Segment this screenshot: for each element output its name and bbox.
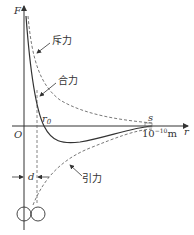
molecule-right	[31, 207, 45, 221]
repulsive-label: 斥力	[52, 34, 72, 46]
s-label: s	[148, 112, 153, 123]
repulsive-leader	[37, 43, 50, 53]
attractive-leader	[70, 165, 82, 176]
net-leader	[40, 83, 56, 96]
origin-label: O	[14, 129, 22, 140]
molecular-force-diagram: F r O 斥力 合力 引力 r0 s 10−10m d	[0, 0, 194, 235]
d-label: d	[28, 171, 34, 182]
net-force-label: 合力	[58, 74, 78, 86]
attractive-label: 引力	[82, 172, 102, 184]
x-axis-label: r	[184, 126, 190, 137]
y-axis-label: F	[13, 5, 22, 16]
repulsive-curve	[28, 16, 152, 123]
attractive-curve	[33, 129, 152, 205]
scale-label: 10−10m	[142, 127, 177, 139]
